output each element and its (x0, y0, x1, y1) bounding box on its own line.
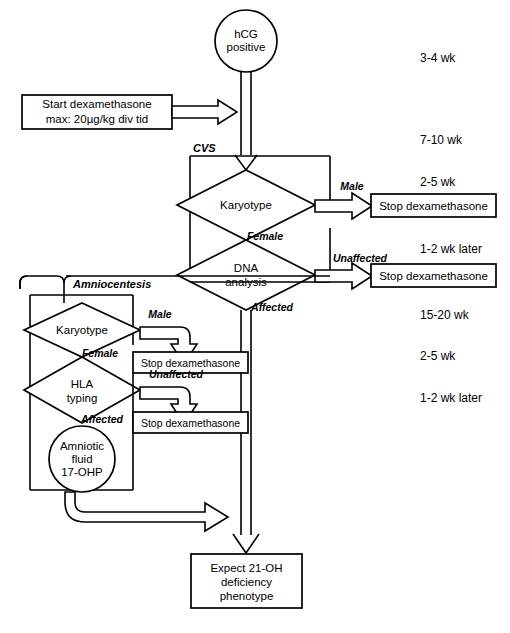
hla-line1: HLA (71, 378, 94, 390)
section-label-cvs: CVS (193, 142, 216, 154)
edge-label-hla-affected: Affected (80, 413, 123, 425)
stop-box-cvs-male-label: Stop dexamethasone (379, 200, 488, 212)
stop-box-amnio-unaffected: Stop dexamethasone (133, 412, 248, 433)
timeline-item-3: 1-2 wk later (420, 242, 482, 256)
stop-box-cvs-unaffected: Stop dexamethasone (371, 264, 496, 287)
stop-box-cvs-male: Stop dexamethasone (371, 194, 496, 217)
timeline-item-2: 2-5 wk (420, 175, 456, 189)
edge-label-amnio-female: Female (82, 347, 118, 359)
cvs-karyotype-label: Karyotype (220, 199, 272, 211)
edge-label-cvs-male: Male (340, 180, 364, 192)
hla-line2: typing (67, 392, 98, 404)
edge-label-dna-affected: Affected (250, 301, 293, 313)
hcg-line2: positive (227, 41, 266, 53)
edge-hcg-to-cvs (235, 71, 257, 170)
edge-treatment-to-trunk (172, 100, 237, 124)
stop-box-cvs-unaffected-label: Stop dexamethasone (379, 270, 488, 282)
amniotic-line3: 17-OHP (61, 466, 103, 478)
stop-box-amnio-unaffected-label: Stop dexamethasone (141, 417, 240, 429)
node-amniotic-fluid: Amniotic fluid 17-OHP (49, 426, 115, 492)
flowchart-canvas: hCG positive Start dexamethasone max: 20… (0, 0, 510, 633)
amniotic-line1: Amniotic (60, 440, 104, 452)
outcome-line2: deficiency (221, 576, 272, 588)
start-dex-line1: Start dexamethasone (42, 98, 151, 110)
section-label-amniocentesis: Amniocentesis (72, 278, 151, 290)
timeline-item-1: 7-10 wk (420, 133, 463, 147)
dna-line1: DNA (234, 262, 259, 274)
edge-cvs-male (315, 193, 372, 219)
timeline-item-4: 15-20 wk (420, 308, 470, 322)
edge-label-dna-unaffected: Unaffected (333, 252, 388, 264)
amnio-karyotype-label: Karyotype (56, 324, 108, 336)
timeline-labels: 3-4 wk 7-10 wk 2-5 wk 1-2 wk later 15-20… (420, 51, 482, 405)
edge-label-hla-unaffected: Unaffected (149, 368, 204, 380)
amniotic-line2: fluid (71, 453, 92, 465)
node-start-dexamethasone: Start dexamethasone max: 20µg/kg div tid (22, 95, 172, 129)
edge-label-cvs-female: Female (247, 230, 283, 242)
node-hcg-positive: hCG positive (215, 10, 277, 72)
outcome-line3: phenotype (220, 590, 274, 602)
timeline-item-6: 1-2 wk later (420, 391, 482, 405)
node-dna-analysis: DNA analysis (177, 240, 315, 310)
timeline-item-0: 3-4 wk (420, 51, 456, 65)
start-dex-line2: max: 20µg/kg div tid (46, 113, 149, 125)
node-expect-phenotype: Expect 21-OH deficiency phenotype (191, 554, 302, 608)
edge-label-amnio-male: Male (148, 308, 172, 320)
timeline-item-5: 2-5 wk (420, 349, 456, 363)
edge-amniotic-to-trunk (65, 492, 228, 531)
hcg-line1: hCG (234, 28, 258, 40)
flowchart-svg: hCG positive Start dexamethasone max: 20… (0, 0, 510, 633)
outcome-line1: Expect 21-OH (210, 562, 282, 574)
